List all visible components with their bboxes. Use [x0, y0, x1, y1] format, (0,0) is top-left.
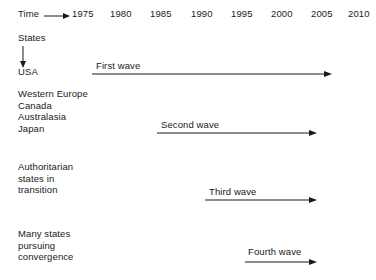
state-group-2-line-3: Australasia [18, 111, 88, 123]
state-group-4-line-2: pursuing [18, 240, 74, 252]
year-tick-2000: 2000 [271, 8, 293, 19]
state-group-3-line-2: states in [18, 173, 73, 185]
year-tick-1985: 1985 [150, 8, 172, 19]
state-group-4: Many states pursuing convergence [18, 228, 74, 263]
year-tick-2010: 2010 [348, 8, 370, 19]
year-tick-1980: 1980 [110, 8, 132, 19]
first-wave-arrow-right-icon [92, 70, 332, 78]
fourth-wave-arrow-right-icon [245, 258, 317, 266]
year-tick-2005: 2005 [311, 8, 333, 19]
state-group-2-line-1: Western Europe [18, 88, 88, 100]
state-group-3: Authoritarian states in transition [18, 161, 73, 196]
state-group-4-line-3: convergence [18, 251, 74, 263]
year-tick-1990: 1990 [191, 8, 213, 19]
state-group-3-line-3: transition [18, 184, 73, 196]
year-tick-1975: 1975 [72, 8, 94, 19]
state-group-2: Western Europe Canada Australasia Japan [18, 88, 88, 134]
time-arrow-right-icon [44, 12, 70, 20]
time-axis-label: Time [18, 8, 39, 20]
state-group-4-line-1: Many states [18, 228, 74, 240]
year-tick-1995: 1995 [231, 8, 253, 19]
state-group-2-line-2: Canada [18, 100, 88, 112]
state-group-1-line-1: USA [18, 66, 38, 78]
diagram-canvas: Time 1975 1980 1985 1990 1995 2000 2005 … [0, 0, 376, 280]
second-wave-arrow-right-icon [157, 129, 317, 137]
third-wave-arrow-right-icon [205, 196, 317, 204]
state-group-1: USA [18, 66, 38, 78]
states-axis-label: States [18, 32, 46, 44]
states-arrow-down-icon [19, 46, 27, 68]
wave-label-fourth: Fourth wave [248, 246, 301, 257]
state-group-3-line-1: Authoritarian [18, 161, 73, 173]
state-group-2-line-4: Japan [18, 123, 88, 135]
